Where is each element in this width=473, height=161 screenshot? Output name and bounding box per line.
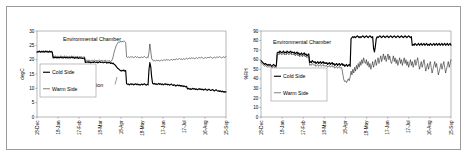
x-tick-label: 15-Sep [224,120,229,135]
y-tick-label: 40 [253,76,259,81]
y-tick-label: 80 [253,38,259,43]
chart-panel-temperature: 051015202530degC18-Dec18-Jan17-Feb18-Mar… [7,7,235,151]
humidity-plot-area: 0102030405060708090%RH18-Dec18-Jan17-Feb… [235,7,462,151]
y-tick-label: 90 [253,29,259,34]
legend-label-cold-side: Cold Side [52,69,75,75]
x-tick-label: 17-Jun [385,120,390,134]
chamber-annotation: Environmental Chamber [273,39,331,45]
temperature-plot-area: 051015202530degC18-Dec18-Jan17-Feb18-Mar… [7,7,235,151]
series-line-warm-side [37,41,226,62]
y-tick-label: 60 [253,57,259,62]
temperature-chart-svg: 051015202530degC18-Dec18-Jan17-Feb18-Mar… [7,7,235,151]
x-tick-label: 16-Aug [427,120,432,135]
y-tick-label: 5 [32,100,35,105]
y-axis-title: %RH [244,68,249,80]
event-leader-line [115,77,117,85]
x-tick-label: 17-Jul [182,121,187,134]
x-tick-label: 18-Mar [98,120,103,135]
chart-panel-humidity: 0102030405060708090%RH18-Dec18-Jan17-Feb… [235,7,462,151]
y-tick-label: 50 [253,67,259,72]
y-tick-label: 10 [253,105,259,110]
x-tick-label: 18-May [364,120,369,136]
y-tick-label: 30 [29,29,35,34]
x-tick-label: 18-Apr [343,120,348,134]
x-tick-label: 15-Sep [449,120,454,135]
y-tick-label: 15 [29,72,35,77]
x-tick-label: 18-Jan [280,120,285,134]
x-tick-label: 18-May [140,120,145,136]
y-tick-label: 25 [29,43,35,48]
x-tick-label: 18-Jan [56,120,61,134]
y-tick-label: 20 [29,57,35,62]
x-tick-label: 17-Jul [406,121,411,134]
y-tick-label: 10 [29,86,35,91]
x-tick-label: 18-Mar [322,120,327,135]
x-tick-label: 16-Aug [203,120,208,135]
chamber-annotation: Environmental Chamber [63,36,121,42]
x-tick-label: 18-Dec [35,120,40,136]
legend-label-warm-side: Warm Side [283,90,309,96]
legend-label-cold-side: Cold Side [283,73,306,79]
y-tick-label: 0 [256,115,259,120]
x-tick-label: 17-Feb [77,120,82,135]
x-tick-label: 18-Apr [119,120,124,134]
humidity-chart-svg: 0102030405060708090%RH18-Dec18-Jan17-Feb… [235,7,462,151]
y-axis-title: degC [20,68,25,80]
y-tick-label: 70 [253,48,259,53]
x-tick-label: 17-Jun [161,120,166,134]
legend-label-warm-side: Warm Side [52,86,78,92]
figure-container: 051015202530degC18-Dec18-Jan17-Feb18-Mar… [6,6,461,150]
y-tick-label: 20 [253,96,259,101]
x-tick-label: 17-Feb [301,120,306,135]
y-tick-label: 0 [32,115,35,120]
y-tick-label: 30 [253,86,259,91]
x-tick-label: 18-Dec [259,120,264,136]
